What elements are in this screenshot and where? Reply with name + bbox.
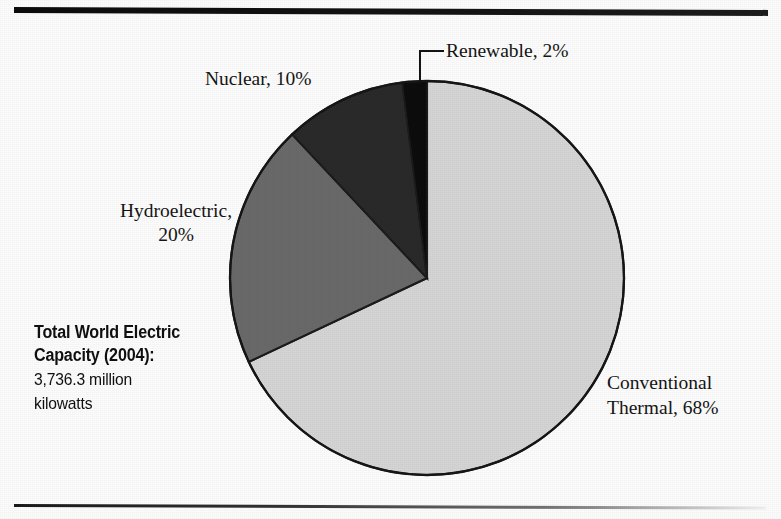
caption-heading-line2: Capacity (2004): [34,344,218,367]
caption-value-line1: 3,736.3 million [34,368,218,391]
label-conventional-thermal-line2: Thermal, 68% [607,397,719,418]
pie-chart-svg [228,77,628,481]
top-rule [14,7,768,16]
label-nuclear: Nuclear, 10% [205,67,311,91]
label-hydroelectric-line2: 20% [158,224,194,245]
label-hydroelectric-line1: Hydroelectric, [120,200,232,221]
figure-page: Renewable, 2% Nuclear, 10% Hydroelectric… [0,0,781,519]
caption-heading-line1: Total World Electric [34,321,218,344]
total-capacity-caption: Total World Electric Capacity (2004): 3,… [34,321,234,415]
label-conventional-thermal: Conventional Thermal, 68% [607,370,719,420]
label-renewable: Renewable, 2% [446,39,568,63]
renewable-leader-line-vertical [419,50,421,83]
renewable-leader-line-horizontal [419,50,444,52]
pie-chart [228,77,628,481]
label-hydroelectric: Hydroelectric, 20% [92,199,260,247]
bottom-rule [14,504,766,510]
caption-value-line2: kilowatts [34,392,218,415]
label-conventional-thermal-line1: Conventional [607,372,712,393]
